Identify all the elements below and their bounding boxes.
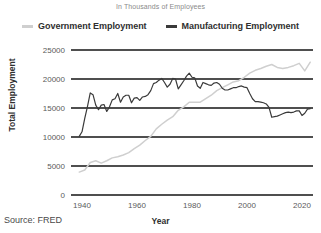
- y-tick-label: 15000: [43, 104, 66, 113]
- x-tick-label: 1940: [73, 201, 91, 210]
- x-tick-label: 1960: [128, 201, 146, 210]
- x-tick-label: 1980: [183, 201, 201, 210]
- x-tick-label: 2020: [293, 201, 311, 210]
- y-tick-label: 5000: [47, 162, 65, 171]
- legend-label-manufacturing: Manufacturing Employment: [182, 21, 299, 31]
- chart-subtitle: In Thousands of Employees: [0, 3, 321, 10]
- y-axis-title: Total Employment: [7, 45, 17, 145]
- series-line-government: [79, 62, 310, 172]
- legend-swatch-manufacturing-icon: [166, 25, 177, 28]
- y-tick-label: 10000: [43, 133, 66, 142]
- employment-line-chart: In Thousands of Employees Government Emp…: [0, 0, 321, 233]
- series-line-manufacturing: [79, 73, 310, 136]
- y-tick-label: 25000: [43, 46, 66, 55]
- legend-swatch-government-icon: [22, 25, 33, 28]
- chart-legend: Government Employment Manufacturing Empl…: [0, 21, 321, 31]
- x-tick-label: 2000: [238, 201, 256, 210]
- source-note: Source: FRED: [4, 215, 62, 225]
- plot-svg: 0500010000150002000025000194019601980200…: [0, 0, 321, 233]
- plot-area: 0500010000150002000025000194019601980200…: [0, 0, 321, 233]
- legend-item-manufacturing[interactable]: Manufacturing Employment: [166, 21, 299, 31]
- legend-label-government: Government Employment: [38, 21, 146, 31]
- y-tick-label: 20000: [43, 75, 66, 84]
- y-tick-label: 0: [61, 191, 66, 200]
- legend-item-government[interactable]: Government Employment: [22, 21, 146, 31]
